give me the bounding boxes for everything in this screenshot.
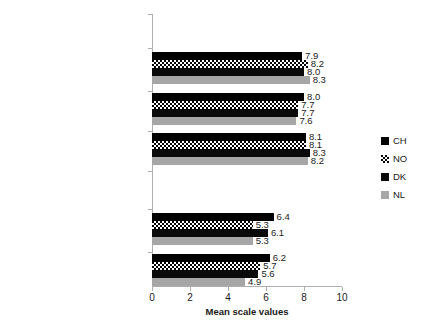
legend-item-dk: DK	[381, 168, 407, 186]
x-axis-tick	[342, 287, 343, 291]
legend-label: CH	[393, 136, 407, 146]
legend-swatch-icon	[381, 191, 389, 199]
legend-label: NL	[393, 190, 405, 200]
bar-participatory-democracy-dk: 7.7	[152, 109, 298, 117]
legend-item-nl: NL	[381, 186, 407, 204]
x-axis-tick-label: 2	[187, 292, 193, 303]
bar-responsiveness-ch: 6.2	[152, 254, 270, 262]
y-axis-tick	[148, 48, 152, 49]
bar-collective-provision-dk: 8.0	[152, 68, 304, 76]
bar-representative-democracy-no: 8.1	[152, 141, 306, 149]
x-axis-tick	[266, 287, 267, 291]
x-axis-tick-label: 0	[149, 292, 155, 303]
bar-collective-provision-ch: 7.9	[152, 52, 302, 60]
legend-label: DK	[393, 172, 406, 182]
x-axis-line	[152, 286, 342, 287]
bar-responsiveness-no: 5.7	[152, 262, 260, 270]
bar-value-label: 5.6	[261, 269, 274, 279]
bar-functional-satisfaction-nl: 5.3	[152, 237, 253, 245]
bar-value-label: 6.1	[271, 228, 284, 238]
x-axis-tick-label: 6	[263, 292, 269, 303]
x-axis-tick	[304, 287, 305, 291]
y-axis-tick	[148, 14, 152, 15]
y-axis-tick	[148, 91, 152, 92]
bar-functional-satisfaction-dk: 6.1	[152, 229, 268, 237]
y-axis-tick	[148, 252, 152, 253]
legend-swatch-icon	[381, 155, 389, 163]
legend-swatch-icon	[381, 173, 389, 181]
bar-participatory-democracy-ch: 8.0	[152, 93, 304, 101]
x-axis-tick	[190, 287, 191, 291]
bar-value-label: 5.3	[256, 236, 269, 246]
x-axis-tick	[228, 287, 229, 291]
bar-chart: GOOD GOVERNMENT PRIORITIES Collective pr…	[0, 0, 421, 323]
x-axis-tick-label: 8	[301, 292, 307, 303]
bar-responsiveness-dk: 5.6	[152, 270, 258, 278]
bar-participatory-democracy-nl: 7.6	[152, 117, 296, 125]
bar-responsiveness-nl: 4.9	[152, 278, 245, 286]
bar-collective-provision-no: 8.2	[152, 60, 308, 68]
bar-participatory-democracy-no: 7.7	[152, 101, 298, 109]
legend-item-no: NO	[381, 150, 407, 168]
bar-value-label: 8.3	[313, 75, 326, 85]
bar-functional-satisfaction-no: 5.3	[152, 221, 253, 229]
legend-item-ch: CH	[381, 132, 407, 150]
y-axis-tick	[148, 209, 152, 210]
bar-collective-provision-nl: 8.3	[152, 76, 310, 84]
x-axis-title: Mean scale values	[152, 306, 342, 317]
legend-swatch-icon	[381, 137, 389, 145]
bar-representative-democracy-nl: 8.2	[152, 157, 308, 165]
y-axis-tick	[148, 131, 152, 132]
bar-representative-democracy-ch: 8.1	[152, 133, 306, 141]
bar-value-label: 6.4	[277, 212, 290, 222]
bar-representative-democracy-dk: 8.3	[152, 149, 310, 157]
legend-label: NO	[393, 154, 407, 164]
x-axis-tick	[152, 287, 153, 291]
bar-value-label: 4.9	[248, 277, 261, 287]
chart-legend: CH NO DK NL	[381, 132, 407, 204]
bar-value-label: 7.6	[299, 116, 312, 126]
x-axis-tick-label: 4	[225, 292, 231, 303]
x-axis-tick-label: 10	[336, 292, 347, 303]
y-axis-tick	[148, 171, 152, 172]
bar-value-label: 8.2	[311, 156, 324, 166]
plot-area: GOOD GOVERNMENT PRIORITIES Collective pr…	[152, 14, 342, 286]
